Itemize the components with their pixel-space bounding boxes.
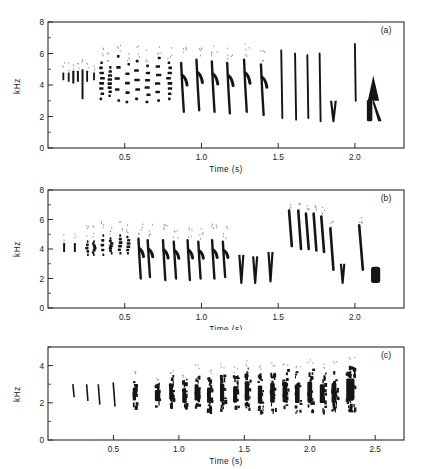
svg-text:4: 4 [39, 80, 44, 90]
panel-c-label: (c) [381, 350, 391, 360]
svg-text:8: 8 [39, 17, 44, 27]
spectrogram-figure: 024680.51.01.52.0 (a) Time (s) kHz 02468… [0, 0, 427, 469]
svg-text:0.5: 0.5 [119, 152, 131, 162]
svg-text:0: 0 [39, 143, 44, 153]
svg-text:0: 0 [39, 435, 44, 445]
panel-c-yaxis-label: kHz [13, 386, 22, 402]
panel-a-plot: 024680.51.01.52.0 (a) Time (s) kHz [0, 0, 427, 175]
svg-text:0.5: 0.5 [119, 312, 131, 322]
svg-text:1.0: 1.0 [196, 312, 208, 322]
svg-text:1.5: 1.5 [239, 444, 251, 454]
panel-a-xaxis-label: Time (s) [209, 164, 243, 174]
svg-text:2.0: 2.0 [349, 152, 361, 162]
panel-b: 024680.51.01.52.0 (b) Time (s) kHz [0, 175, 427, 330]
panel-c: 0240.51.01.52.02.5 (c) Time (s) kHz [0, 330, 427, 469]
svg-text:2.5: 2.5 [369, 444, 381, 454]
panel-c-signal [73, 357, 357, 415]
svg-text:4: 4 [39, 361, 44, 371]
panel-a: 024680.51.01.52.0 (a) Time (s) kHz [0, 0, 427, 175]
svg-text:2: 2 [39, 398, 44, 408]
svg-text:1.5: 1.5 [272, 152, 284, 162]
panel-a-label: (a) [381, 25, 392, 35]
svg-text:2: 2 [39, 274, 44, 284]
svg-text:2.0: 2.0 [304, 444, 316, 454]
panel-a-signal [62, 44, 381, 122]
panel-a-axes: 024680.51.01.52.0 [39, 17, 404, 162]
panel-b-label: (b) [381, 193, 392, 203]
svg-text:1.0: 1.0 [173, 444, 185, 454]
panel-a-yaxis-label: kHz [13, 78, 22, 94]
svg-text:8: 8 [39, 185, 44, 195]
svg-text:2.0: 2.0 [349, 312, 361, 322]
svg-text:6: 6 [39, 215, 44, 225]
panel-c-plot: 0240.51.01.52.02.5 (c) Time (s) kHz [0, 330, 427, 469]
svg-text:6: 6 [39, 49, 44, 59]
panel-c-xaxis-label: Time (s) [209, 456, 243, 466]
panel-b-plot: 024680.51.01.52.0 (b) Time (s) kHz [0, 175, 427, 330]
svg-text:2: 2 [39, 112, 44, 122]
svg-text:4: 4 [39, 244, 44, 254]
svg-text:0: 0 [39, 303, 44, 313]
panel-b-signal [63, 203, 380, 283]
panel-b-yaxis-label: kHz [13, 241, 22, 257]
svg-text:1.0: 1.0 [196, 152, 208, 162]
svg-text:1.5: 1.5 [272, 312, 284, 322]
svg-text:0.5: 0.5 [108, 444, 120, 454]
